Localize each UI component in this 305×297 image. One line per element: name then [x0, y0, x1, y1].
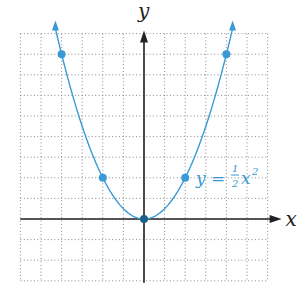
- svg-text:2: 2: [231, 178, 238, 189]
- svg-text:1: 1: [232, 163, 238, 174]
- x-axis-label: x: [286, 207, 297, 231]
- curve-arrow-icon: [229, 21, 236, 31]
- svg-text:x: x: [241, 168, 251, 188]
- x-axis-arrow-icon: [270, 215, 282, 223]
- svg-text:y =: y =: [195, 168, 225, 188]
- data-point: [140, 215, 148, 223]
- curve-arrow-icon: [52, 21, 59, 31]
- data-point: [181, 174, 189, 182]
- y-axis-arrow-icon: [140, 31, 148, 43]
- parabola-graph: xyy =12x2: [0, 0, 305, 297]
- y-axis-label: y: [137, 0, 150, 23]
- data-point: [58, 50, 66, 58]
- data-point: [222, 50, 230, 58]
- plot-area: xyy =12x2: [0, 0, 305, 297]
- data-point: [99, 174, 107, 182]
- svg-text:2: 2: [251, 166, 258, 177]
